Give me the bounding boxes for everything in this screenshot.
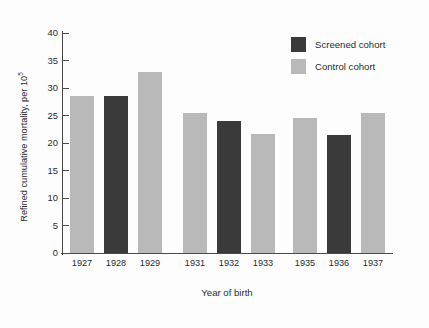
x-axis-line [61, 253, 393, 254]
y-tick-mark [63, 33, 69, 34]
bar-1927 [70, 96, 94, 253]
x-tick-label-1927: 1927 [64, 258, 100, 268]
bar-1929 [138, 72, 162, 254]
bar-1936 [327, 135, 351, 253]
bar-1928 [104, 96, 128, 253]
legend-label: Screened cohort [315, 39, 385, 50]
x-axis-title: Year of birth [62, 287, 392, 298]
bar-chart-figure: Refined cumulative mortality, per 105 05… [0, 0, 429, 328]
y-tick-mark [63, 198, 69, 199]
bar-1935 [293, 118, 317, 253]
x-tick-label-1937: 1937 [355, 258, 391, 268]
y-tick-mark [63, 170, 69, 171]
legend-swatch [291, 37, 306, 52]
x-tick-label-1935: 1935 [287, 258, 323, 268]
bar-1931 [183, 113, 207, 253]
x-tick-label-1931: 1931 [177, 258, 213, 268]
x-tick-label-1929: 1929 [132, 258, 168, 268]
bar-1937 [361, 113, 385, 253]
bar-1933 [251, 134, 275, 253]
bar-1932 [217, 121, 241, 253]
y-tick-mark [63, 225, 69, 226]
y-tick-mark [63, 253, 69, 254]
x-tick-label-1936: 1936 [321, 258, 357, 268]
legend-label: Control cohort [315, 61, 375, 72]
legend-item-screened: Screened cohort [291, 33, 427, 55]
y-tick-mark [63, 143, 69, 144]
legend-item-control: Control cohort [291, 55, 427, 77]
x-tick-label-1928: 1928 [98, 258, 134, 268]
x-tick-label-1932: 1932 [211, 258, 247, 268]
legend-swatch [291, 59, 306, 74]
y-tick-mark [63, 60, 69, 61]
y-tick-mark [63, 115, 69, 116]
y-tick-mark [63, 88, 69, 89]
chart-legend: Screened cohortControl cohort [291, 33, 427, 77]
x-tick-label-1933: 1933 [245, 258, 281, 268]
